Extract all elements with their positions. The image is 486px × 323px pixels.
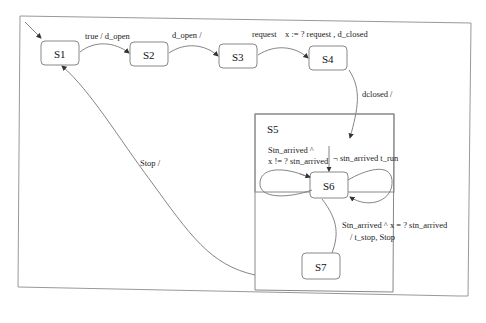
- svg-text:S6: S6: [323, 180, 335, 192]
- state-s2[interactable]: S2: [130, 42, 168, 66]
- state-diagram: S1 S2 S3 S4 true / d_open d_open / reque…: [0, 0, 486, 323]
- svg-text:S5: S5: [267, 123, 279, 135]
- transition-s6-s7: [322, 199, 336, 258]
- state-s1[interactable]: S1: [41, 41, 79, 65]
- svg-text:x != ? stn_arrived: x != ? stn_arrived: [268, 156, 329, 166]
- svg-text:Stop /: Stop /: [140, 158, 161, 168]
- transition-s4-s5: [349, 70, 357, 138]
- svg-text:dclosed /: dclosed /: [362, 89, 393, 99]
- svg-text:true / d_open: true / d_open: [85, 31, 131, 41]
- state-s4[interactable]: S4: [309, 46, 347, 70]
- svg-text:request x := ? request , d_: request x := ? request , d_closed: [252, 29, 368, 39]
- svg-text:S4: S4: [322, 53, 334, 65]
- transition-s2-s3: [169, 46, 218, 56]
- transition-s5-s1: [62, 66, 255, 275]
- transition-s3-s4: [258, 48, 308, 58]
- svg-text:/ t_stop, Stop: / t_stop, Stop: [350, 232, 395, 242]
- state-s3[interactable]: S3: [219, 44, 257, 68]
- svg-text:S3: S3: [232, 51, 244, 63]
- svg-text:Stn_arrived ^ x = ? stn_arrive: Stn_arrived ^ x = ? stn_arrived: [342, 220, 448, 230]
- svg-text:d_open /: d_open /: [172, 30, 202, 40]
- svg-text:Stn_arrived ^: Stn_arrived ^: [268, 145, 314, 155]
- svg-text:S1: S1: [54, 48, 66, 60]
- state-s6[interactable]: S6: [310, 172, 348, 198]
- svg-text:S7: S7: [315, 261, 327, 273]
- state-s7[interactable]: S7: [302, 253, 340, 279]
- transition-s1-s2: [80, 44, 129, 53]
- svg-text:¬ stn_arrived t_run: ¬ stn_arrived t_run: [333, 153, 399, 163]
- initial-arrow: [25, 22, 41, 38]
- self-loop-right: [348, 169, 392, 203]
- svg-text:S2: S2: [143, 49, 155, 61]
